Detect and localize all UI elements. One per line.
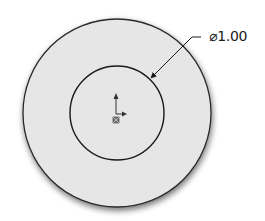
- diameter-dimension-label[interactable]: ⌀1.00: [209, 28, 247, 44]
- outer-circle-face[interactable]: [23, 19, 211, 207]
